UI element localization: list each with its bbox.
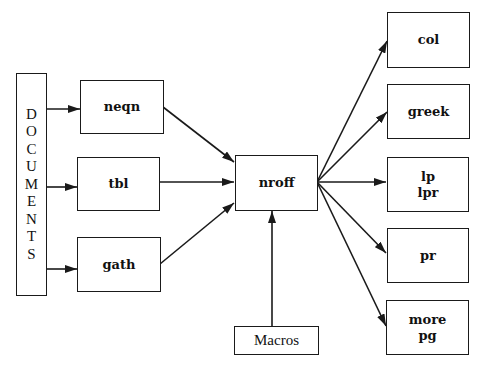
lp-lpr-box: lp lpr xyxy=(387,157,469,212)
more-label: more xyxy=(409,312,447,328)
documents-letter: E xyxy=(25,193,38,211)
arrow-nroff-to-more xyxy=(317,182,386,326)
macros-box: Macros xyxy=(234,326,319,355)
col-label: col xyxy=(418,32,440,48)
macros-label: Macros xyxy=(254,332,299,349)
documents-letter: D xyxy=(25,106,38,124)
nroff-label: nroff xyxy=(259,175,295,191)
pg-label: pg xyxy=(418,328,436,344)
pr-box: pr xyxy=(387,228,469,283)
nroff-box: nroff xyxy=(235,155,318,211)
greek-label: greek xyxy=(408,104,450,120)
col-box: col xyxy=(387,12,470,68)
nroff-pipeline-diagram: D O C U M E N T S neqn tbl gath nroff Ma… xyxy=(0,0,483,368)
neqn-label: neqn xyxy=(104,99,140,115)
tbl-box: tbl xyxy=(77,157,160,211)
arrow-nroff-to-col xyxy=(317,41,387,182)
documents-letter: T xyxy=(25,228,38,246)
documents-letter: M xyxy=(25,176,38,194)
lpr-label: lpr xyxy=(418,185,439,201)
neqn-box: neqn xyxy=(80,80,164,134)
gath-box: gath xyxy=(77,237,161,292)
lp-label: lp xyxy=(421,169,435,185)
arrow-neqn-to-nroff xyxy=(163,107,234,162)
arrow-nroff-to-pr xyxy=(317,182,386,253)
documents-label: D O C U M E N T S xyxy=(25,106,38,264)
gath-label: gath xyxy=(103,257,136,273)
arrow-gath-to-nroff xyxy=(160,203,234,264)
documents-letter: S xyxy=(25,246,38,264)
documents-box: D O C U M E N T S xyxy=(16,73,47,296)
more-pg-box: more pg xyxy=(386,300,469,355)
documents-letter: C xyxy=(25,141,38,159)
greek-box: greek xyxy=(387,84,470,139)
documents-letter: N xyxy=(25,211,38,229)
documents-letter: O xyxy=(25,123,38,141)
tbl-label: tbl xyxy=(108,176,128,192)
pr-label: pr xyxy=(420,248,436,264)
documents-letter: U xyxy=(25,158,38,176)
arrow-nroff-to-greek xyxy=(317,112,387,182)
